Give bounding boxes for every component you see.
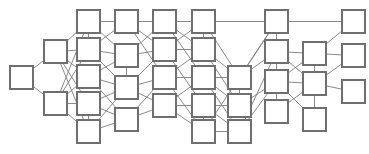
- graph-node[interactable]: [115, 10, 138, 33]
- graph-node[interactable]: [265, 100, 288, 123]
- graph-edge: [288, 93, 303, 108]
- graph-node[interactable]: [265, 70, 288, 93]
- graph-node[interactable]: [192, 94, 215, 117]
- graph-node[interactable]: [303, 72, 326, 95]
- graph-node[interactable]: [153, 94, 176, 117]
- graph-edge: [138, 61, 153, 76]
- graph-edge: [67, 113, 77, 121]
- graph-node[interactable]: [303, 108, 326, 131]
- graph-edge: [67, 32, 77, 41]
- graph-edge: [288, 52, 303, 53]
- graph-node[interactable]: [77, 92, 100, 115]
- graph-edge: [215, 114, 228, 123]
- graph-node[interactable]: [228, 94, 251, 117]
- graph-node[interactable]: [44, 92, 67, 115]
- graph-node[interactable]: [77, 120, 100, 143]
- graph-node[interactable]: [342, 10, 365, 33]
- graph-edge: [100, 123, 115, 128]
- graph-edge: [100, 30, 115, 41]
- graph-edge: [326, 54, 342, 55]
- graph-node[interactable]: [192, 10, 215, 33]
- graph-node[interactable]: [265, 10, 288, 33]
- graph-node[interactable]: [115, 76, 138, 99]
- graph-edge: [138, 30, 153, 41]
- graph-edge: [138, 110, 153, 116]
- graph-node[interactable]: [77, 65, 100, 88]
- graph-node[interactable]: [228, 120, 251, 143]
- graph-canvas: [0, 0, 369, 154]
- graph-node[interactable]: [77, 10, 100, 33]
- graph-edge: [215, 86, 228, 96]
- node-link-diagram: [0, 0, 369, 154]
- graph-node[interactable]: [192, 38, 215, 61]
- graph-node[interactable]: [265, 40, 288, 63]
- graph-edge: [137, 89, 154, 108]
- graph-edge: [176, 58, 192, 69]
- graph-edge: [100, 51, 115, 53]
- graph-node[interactable]: [153, 10, 176, 33]
- graph-node[interactable]: [342, 44, 365, 67]
- graph-edge: [326, 86, 342, 89]
- node-layer: [10, 10, 365, 143]
- graph-edge: [100, 80, 115, 84]
- graph-edge: [251, 89, 265, 98]
- graph-edge: [33, 60, 44, 68]
- graph-node[interactable]: [153, 66, 176, 89]
- graph-edge: [33, 86, 44, 94]
- graph-edge: [251, 60, 265, 70]
- graph-node[interactable]: [192, 120, 215, 143]
- graph-node[interactable]: [44, 40, 67, 63]
- graph-edge: [326, 64, 342, 75]
- graph-node[interactable]: [115, 108, 138, 131]
- graph-edge: [98, 99, 116, 120]
- graph-edge: [288, 92, 303, 103]
- graph-edge: [326, 31, 342, 44]
- graph-edge: [67, 50, 77, 51]
- graph-edge: [100, 32, 115, 45]
- graph-edge: [288, 82, 303, 83]
- graph-node[interactable]: [153, 38, 176, 61]
- graph-node[interactable]: [10, 66, 33, 89]
- graph-node[interactable]: [115, 44, 138, 67]
- graph-edge: [176, 86, 192, 97]
- graph-node[interactable]: [228, 66, 251, 89]
- graph-edge: [138, 51, 153, 53]
- graph-node[interactable]: [342, 80, 365, 103]
- graph-edge: [176, 113, 192, 124]
- graph-edge: [138, 32, 153, 45]
- graph-node[interactable]: [77, 38, 100, 61]
- graph-edge: [67, 86, 77, 94]
- graph-edge: [215, 58, 228, 68]
- graph-node[interactable]: [192, 66, 215, 89]
- graph-node[interactable]: [303, 42, 326, 65]
- graph-edge: [138, 81, 153, 85]
